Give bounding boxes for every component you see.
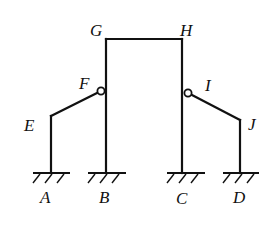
label-C: C	[176, 189, 188, 208]
members	[51, 39, 240, 173]
hatch-icon	[33, 174, 40, 183]
label-I: I	[204, 76, 212, 95]
support-B	[88, 173, 126, 183]
support-D	[223, 173, 259, 183]
hatch-icon	[167, 174, 174, 183]
hatch-icon	[88, 174, 95, 183]
hatch-icon	[100, 174, 107, 183]
label-F: F	[78, 74, 90, 93]
support-C	[167, 173, 205, 183]
hatch-icon	[235, 174, 242, 183]
hatch-icon	[223, 174, 230, 183]
member-IJ	[192, 95, 240, 120]
support-A	[33, 173, 70, 183]
label-G: G	[90, 21, 102, 40]
label-H: H	[179, 21, 194, 40]
hatch-icon	[247, 174, 254, 183]
hinge-F-icon	[97, 87, 104, 94]
hatch-icon	[45, 174, 52, 183]
hatch-icon	[112, 174, 119, 183]
hinge-I-icon	[184, 89, 191, 96]
member-EF	[51, 93, 97, 116]
label-D: D	[232, 188, 246, 207]
hatch-icon	[179, 174, 186, 183]
label-A: A	[39, 188, 51, 207]
label-B: B	[99, 188, 110, 207]
hatch-icon	[191, 174, 198, 183]
frame-diagram: G H F I E J A B C D	[0, 0, 275, 236]
hatch-icon	[57, 174, 64, 183]
label-J: J	[248, 115, 257, 134]
label-E: E	[23, 116, 35, 135]
